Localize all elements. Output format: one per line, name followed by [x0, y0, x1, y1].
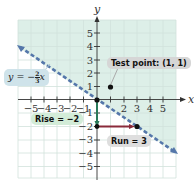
rise-callout: Rise = −2	[31, 113, 83, 125]
graph: −5 −4 −3 −2 −1 2 3 4 5 5 4 3 2 1 −1 −2 −…	[0, 0, 194, 191]
test-point	[108, 84, 113, 89]
svg-text:−4: −4	[78, 148, 93, 159]
svg-text:−3: −3	[78, 134, 93, 145]
origin-point	[94, 97, 99, 102]
svg-text:4: 4	[87, 41, 93, 52]
equation-variable: x	[40, 71, 45, 82]
svg-text:3: 3	[134, 103, 140, 114]
svg-text:4: 4	[147, 103, 153, 114]
svg-text:5: 5	[87, 28, 93, 39]
svg-text:3: 3	[87, 55, 93, 66]
run-end-point	[134, 124, 139, 129]
svg-text:−5: −5	[78, 161, 93, 172]
svg-text:5: 5	[160, 103, 166, 114]
equation-callout: y = −23x	[4, 69, 49, 86]
svg-text:x: x	[188, 93, 194, 106]
test-point-callout: Test point: (1, 1)	[107, 57, 191, 69]
svg-text:2: 2	[87, 68, 93, 79]
svg-text:1: 1	[87, 81, 93, 92]
svg-text:y: y	[93, 3, 101, 16]
rise-end-point	[95, 124, 100, 129]
equation-text: y = −	[8, 71, 35, 82]
svg-text:2: 2	[121, 103, 127, 114]
run-callout: Run = 3	[107, 135, 151, 147]
